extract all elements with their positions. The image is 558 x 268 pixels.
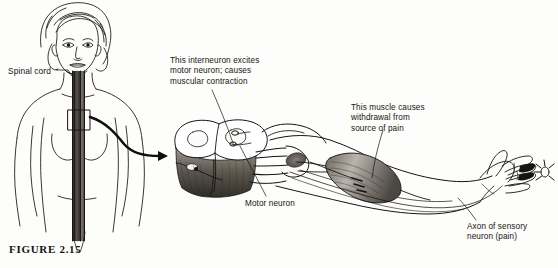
pain-stimulus-icon <box>534 160 554 180</box>
figure-caption: FIGURE 2.15 <box>9 243 81 255</box>
female-head <box>41 3 111 75</box>
label-sensory-axon: Axon of sensory neuron (pain) <box>467 222 527 243</box>
magnification-arrow <box>90 117 168 161</box>
label-motor-neuron: Motor neuron <box>245 199 295 209</box>
spinal-cord-cross-section <box>175 120 267 197</box>
nerve-roots <box>250 146 309 183</box>
figure-illustration: Spinal cord This interneuron excites mot… <box>0 0 558 268</box>
label-muscle: This muscle causes withdrawal from sourc… <box>351 103 425 134</box>
label-spinal-cord: Spinal cord <box>8 66 51 76</box>
hand <box>480 151 536 202</box>
label-interneuron: This interneuron excites motor neuron; c… <box>170 56 259 87</box>
spinal-cord-column <box>72 71 85 252</box>
